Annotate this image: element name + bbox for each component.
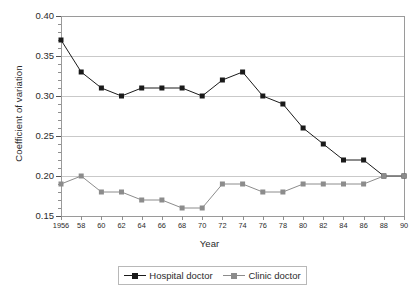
x-axis-tick-label: 64 — [138, 221, 146, 230]
data-point-marker — [79, 70, 84, 75]
plot-frame — [62, 17, 405, 217]
data-point-marker — [139, 86, 144, 91]
x-axis-tick-label: 90 — [400, 221, 408, 230]
x-axis-tick-label: 76 — [259, 221, 267, 230]
data-point-marker — [381, 174, 386, 179]
x-axis-tick-label: 78 — [279, 221, 287, 230]
legend-marker-icon — [124, 271, 146, 280]
x-axis-tick-label: 60 — [97, 221, 105, 230]
chart-figure: Coefficient of variation 0.400.350.300.2… — [0, 0, 419, 298]
x-axis-tick-label: 82 — [319, 221, 327, 230]
plot-area — [0, 0, 419, 298]
x-axis-tick-label: 80 — [299, 221, 307, 230]
data-point-marker — [260, 190, 265, 195]
data-point-marker — [139, 198, 144, 203]
data-point-marker — [79, 174, 84, 179]
data-point-marker — [321, 142, 326, 147]
x-axis-tick-label: 66 — [158, 221, 166, 230]
data-point-marker — [119, 94, 124, 99]
y-axis-tick-label: 0.15 — [20, 211, 54, 221]
series-line-clinic-doctor — [61, 176, 404, 208]
x-axis-tick-label: 58 — [77, 221, 85, 230]
data-point-marker — [240, 70, 245, 75]
data-point-marker — [99, 190, 104, 195]
legend-marker-icon — [223, 271, 245, 280]
data-point-marker — [361, 182, 366, 187]
series-line-hospital-doctor — [61, 40, 404, 176]
data-point-marker — [402, 174, 407, 179]
data-point-marker — [180, 86, 185, 91]
data-point-marker — [59, 38, 64, 43]
data-point-marker — [180, 206, 185, 211]
chart-legend: Hospital doctor Clinic doctor — [118, 266, 307, 285]
legend-label: Clinic doctor — [248, 270, 300, 281]
data-point-marker — [361, 158, 366, 163]
y-axis-tick-label: 0.30 — [20, 91, 54, 101]
data-point-marker — [240, 182, 245, 187]
x-axis-title: Year — [0, 238, 419, 249]
data-point-marker — [200, 206, 205, 211]
data-point-marker — [59, 182, 64, 187]
data-point-marker — [220, 78, 225, 83]
y-axis-tick-label: 0.35 — [20, 51, 54, 61]
x-axis-tick-label: 88 — [380, 221, 388, 230]
x-axis-tick-label: 1956 — [53, 221, 69, 230]
data-point-marker — [301, 126, 306, 131]
x-axis-tick-label: 70 — [198, 221, 206, 230]
data-point-marker — [159, 86, 164, 91]
y-axis-tick-label: 0.40 — [20, 11, 54, 21]
x-axis-tick-label: 62 — [117, 221, 125, 230]
x-axis-tick-label: 72 — [218, 221, 226, 230]
data-point-marker — [260, 94, 265, 99]
legend-label: Hospital doctor — [149, 270, 212, 281]
legend-item-hospital-doctor: Hospital doctor — [124, 270, 212, 281]
legend-item-clinic-doctor: Clinic doctor — [223, 270, 300, 281]
x-axis-tick-label: 74 — [238, 221, 246, 230]
data-point-marker — [119, 190, 124, 195]
data-point-marker — [99, 86, 104, 91]
data-point-marker — [280, 102, 285, 107]
data-point-marker — [321, 182, 326, 187]
x-axis-tick-label: 68 — [178, 221, 186, 230]
data-point-marker — [280, 190, 285, 195]
data-point-marker — [341, 182, 346, 187]
data-point-marker — [341, 158, 346, 163]
data-point-marker — [220, 182, 225, 187]
data-point-marker — [159, 198, 164, 203]
x-axis-tick-label: 84 — [339, 221, 347, 230]
y-axis-tick-label: 0.20 — [20, 171, 54, 181]
x-axis-tick-label: 86 — [360, 221, 368, 230]
y-axis-tick-label: 0.25 — [20, 131, 54, 141]
data-point-marker — [200, 94, 205, 99]
data-point-marker — [301, 182, 306, 187]
